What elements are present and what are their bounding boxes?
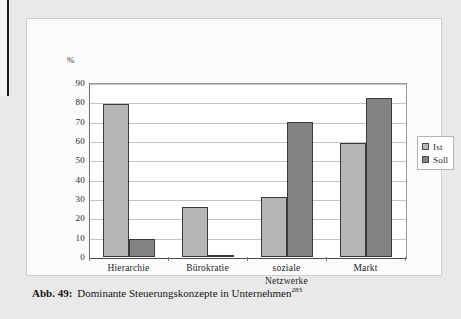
bar-soll-0 [129,239,155,257]
y-axis-tick-label: 50 [63,155,85,165]
figure-caption-number: Abb. 49: [32,287,72,299]
bar-ist-2 [261,197,287,257]
x-axis-label-line: Markt [326,262,405,275]
x-axis-label-line: Hierarchie [89,262,168,275]
y-axis-tick-label: 70 [63,117,85,127]
page-gutter-strip [0,0,9,96]
y-axis-tick-labels: 0102030405060708090 [61,83,85,257]
x-axis-label-line: soziale [247,262,326,275]
x-axis-category-3: Markt [326,262,405,275]
legend-label-ist: Ist [433,142,443,152]
x-axis-tick [326,257,327,261]
x-axis-category-1: Bürokratie [168,262,247,275]
figure-caption-footnote: 283 [291,286,302,294]
legend-label-soll: Soll [433,155,448,165]
bar-ist-3 [340,143,366,257]
bar-ist-0 [103,104,129,257]
figure-caption: Abb. 49:Dominante Steuerungskonzepte in … [32,286,302,299]
x-axis-label-line: Bürokratie [168,262,247,275]
x-axis-tick [247,257,248,261]
y-axis-tick-label: 40 [63,175,85,185]
chart-legend: Ist Soll [417,136,454,170]
figure-panel: % 0102030405060708090 HierarchieBürokrat… [26,18,442,276]
y-axis-tick-label: 80 [63,97,85,107]
y-axis-tick-label: 20 [63,213,85,223]
figure-page: % 0102030405060708090 HierarchieBürokrat… [0,0,461,319]
y-axis-tick-label: 0 [63,252,85,262]
x-axis-category-0: Hierarchie [89,262,168,275]
legend-item-ist: Ist [422,140,448,153]
y-axis-tick-label: 30 [63,194,85,204]
legend-swatch-icon-ist [422,143,429,150]
bar-soll-3 [366,98,392,257]
bar-soll-2 [287,122,313,257]
y-axis-tick-label: 90 [63,78,85,88]
x-axis-category-2: sozialeNetzwerke [247,262,326,288]
bar-soll-1 [208,255,234,257]
y-axis-unit-label: % [67,55,75,65]
figure-caption-text: Dominante Steuerungskonzepte in Unterneh… [77,287,291,299]
x-axis-tick [405,257,406,261]
bar-ist-1 [182,207,208,257]
legend-item-soll: Soll [422,153,448,166]
x-axis-tick [89,257,90,261]
x-axis-tick [168,257,169,261]
legend-swatch-icon-soll [422,156,429,163]
y-axis-tick-label: 10 [63,233,85,243]
y-axis-tick-label: 60 [63,136,85,146]
bars-layer [89,83,405,257]
